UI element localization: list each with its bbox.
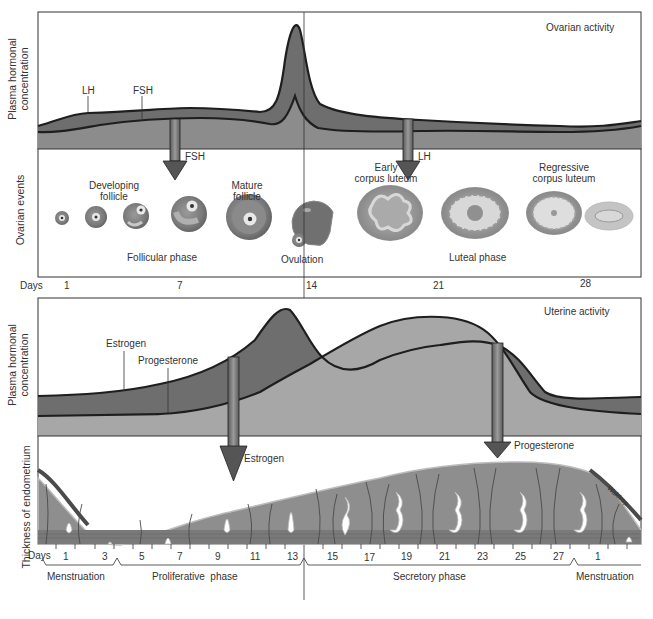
uterine-day-1-next: 1 [595,551,601,562]
follicle-stage-2 [85,206,107,228]
corpus-albicans [585,202,633,230]
progesterone-arrow-label: Progesterone [514,440,574,451]
phase-menstruation-end: Menstruation [576,571,634,582]
uterine-day-23: 23 [477,551,488,562]
uterine-day-21: 21 [439,551,450,562]
uterine-day-1: 1 [63,551,69,562]
mature-follicle-label: Mature follicle [222,180,272,202]
corpus-luteum-early [357,185,423,241]
corpus-luteum-regressive [526,191,582,235]
ovarian-activity-title: Ovarian activity [546,22,614,33]
phase-menstruation-start: Menstruation [47,571,105,582]
ovarian-hormone-y-label: Plasma hormonal concentration [6,14,30,144]
phase-proliferative: Proliferative phase [152,571,238,582]
uterine-activity-title: Uterine activity [544,306,610,317]
uterine-day-25: 25 [515,551,526,562]
follicle-stage-3 [123,203,149,229]
fsh-curve-label: FSH [133,85,153,96]
uterine-day-27: 27 [553,551,564,562]
day-tick-1: 1 [64,280,70,291]
uterine-hormone-chart [38,298,641,436]
day-tick-21: 21 [433,280,444,291]
uterine-hormone-y-label: Plasma hormonal concentration [6,300,30,430]
estrogen-arrow-label: Estrogen [244,453,284,464]
follicular-phase-label: Follicular phase [127,252,197,263]
uterine-day-15: 15 [327,551,338,562]
estrogen-curve-label: Estrogen [106,338,146,349]
uterine-day-17: 17 [364,552,375,563]
uterine-day-3: 3 [102,551,108,562]
early-corpus-luteum-label: Early corpus luteum [346,162,426,184]
uterine-day-5: 5 [139,551,145,562]
luteal-phase-label: Luteal phase [449,252,506,263]
phase-secretory: Secretory phase [393,571,466,582]
uterine-day-7: 7 [177,551,183,562]
lh-arrow-label: LH [418,151,431,162]
ovulation-label: Ovulation [281,254,323,265]
day-tick-28: 28 [580,278,591,289]
regressive-corpus-luteum-label: Regressive corpus luteum [524,162,604,184]
ovarian-events-y-label: Ovarian events [14,160,26,260]
day-tick-7: 7 [177,280,183,291]
day-tick-14: 14 [306,280,317,291]
endometrium-panel [38,436,641,549]
days-label-top: Days [20,280,43,291]
uterine-day-11: 11 [250,551,260,562]
uterine-day-19: 19 [401,551,412,562]
developing-follicle-label: Developing follicle [84,180,144,202]
follicle-stage-4 [171,196,207,232]
lh-curve-label: LH [82,85,95,96]
follicle-stage-1 [55,211,69,225]
days-label-bottom: Days [28,550,51,561]
uterine-day-13: 13 [287,551,298,562]
uterine-day-9: 9 [215,551,221,562]
phase-braces [42,558,641,565]
progesterone-curve-label: Progesterone [138,355,198,366]
fsh-arrow-label: FSH [185,151,205,162]
corpus-luteum-mid [441,187,509,239]
